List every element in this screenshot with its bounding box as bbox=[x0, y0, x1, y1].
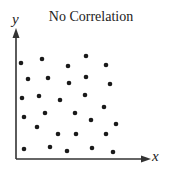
data-point bbox=[19, 61, 24, 66]
data-point bbox=[102, 105, 107, 110]
data-point bbox=[48, 145, 53, 150]
data-point bbox=[65, 149, 70, 154]
data-point bbox=[84, 54, 89, 59]
data-point bbox=[58, 98, 63, 103]
data-points bbox=[19, 54, 119, 155]
data-point bbox=[111, 150, 116, 155]
data-point bbox=[104, 63, 109, 68]
scatter-chart: No Correlation y x bbox=[0, 0, 171, 176]
data-point bbox=[108, 82, 113, 87]
data-point bbox=[73, 111, 78, 116]
data-point bbox=[43, 111, 48, 116]
data-point bbox=[84, 75, 89, 80]
data-point bbox=[74, 132, 79, 137]
data-point bbox=[67, 81, 72, 86]
data-point bbox=[37, 94, 42, 99]
data-point bbox=[90, 146, 95, 151]
data-point bbox=[89, 118, 94, 123]
data-point bbox=[66, 64, 71, 69]
x-axis-arrow-icon bbox=[141, 156, 151, 163]
data-point bbox=[114, 122, 119, 127]
data-point bbox=[22, 115, 27, 120]
data-point bbox=[22, 147, 27, 152]
data-point bbox=[83, 93, 88, 98]
data-point bbox=[104, 132, 109, 137]
plot-area bbox=[0, 0, 171, 176]
data-point bbox=[40, 57, 45, 62]
data-point bbox=[35, 125, 40, 130]
y-axis-arrow-icon bbox=[13, 28, 20, 38]
data-point bbox=[20, 96, 25, 101]
data-point bbox=[56, 132, 61, 137]
data-point bbox=[26, 77, 31, 82]
data-point bbox=[46, 76, 51, 81]
